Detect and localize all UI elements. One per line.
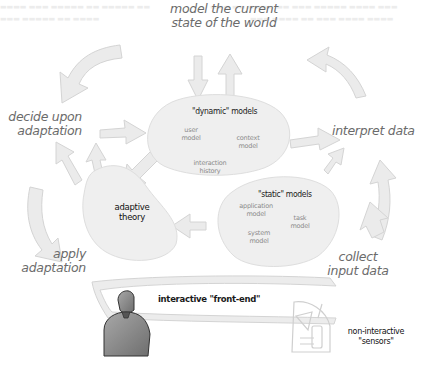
label-model-world: model the current state of the world — [164, 2, 284, 30]
adaptive-theory-label: adaptive theory — [114, 203, 150, 222]
sensors-icon — [292, 302, 330, 352]
user-model-label: user model — [176, 126, 206, 142]
static-models-title: "static" models — [258, 189, 312, 199]
arrow-static-to-interpret — [324, 148, 344, 174]
label-interpret-data: interpret data — [332, 124, 415, 138]
dynamic-models-title: "dynamic" models — [192, 106, 257, 116]
arrow-from-decide — [100, 120, 146, 144]
curved-arrow-top-right — [307, 47, 366, 98]
system-model-label: system model — [242, 229, 276, 245]
diagram-shapes — [0, 0, 423, 373]
application-model-label: application model — [234, 202, 278, 218]
label-apply-adaptation: apply adaptation — [6, 247, 86, 275]
front-end-label: interactive "front-end" — [158, 295, 260, 305]
label-collect-input: collect input data — [318, 250, 398, 278]
label-decide-adaptation: decide upon adaptation — [8, 110, 82, 138]
arrow-down-world — [188, 56, 208, 100]
task-model-label: task model — [286, 214, 314, 230]
interaction-history-label: interaction history — [188, 159, 232, 175]
sensors-label: non-interactive "sensors" — [338, 327, 414, 346]
arrow-up-world — [218, 54, 242, 100]
adaptive-system-diagram: ▬▬▬ ▬▬ ▬▬▬▬ ▬▬ ▬▬▬ ▬▬▬▬▬ ▬▬▬▬ ▬▬▬ ▬▬▬ ▬▬… — [0, 0, 423, 373]
context-model-label: context model — [230, 134, 266, 150]
arrow-theory-out — [56, 142, 82, 185]
curved-arrow-top-left — [60, 45, 122, 103]
person-icon — [104, 291, 150, 356]
